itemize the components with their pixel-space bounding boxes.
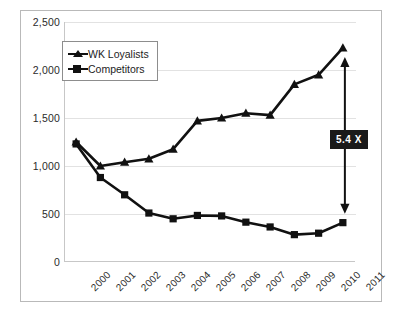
- data-point-marker: [194, 212, 201, 219]
- data-point-marker: [291, 231, 298, 238]
- square-marker-icon: [68, 63, 88, 75]
- series-layer: [0, 0, 396, 315]
- series-competitors: [73, 140, 347, 238]
- chart-legend: WK Loyalists Competitors: [62, 41, 158, 81]
- data-point-marker: [97, 174, 104, 181]
- data-point-marker: [267, 223, 274, 230]
- legend-label: WK Loyalists: [88, 48, 149, 60]
- data-point-marker: [339, 219, 346, 226]
- triangle-marker-icon: [68, 48, 88, 60]
- data-point-marker: [121, 191, 128, 198]
- data-point-marker: [145, 209, 152, 216]
- chart-container: 2,500 2,000 1,500 1,000 500 0 2000 2001 …: [0, 0, 396, 315]
- legend-label: Competitors: [88, 63, 145, 75]
- data-point-marker: [218, 212, 225, 219]
- data-point-marker: [170, 215, 177, 222]
- data-point-marker: [315, 230, 322, 237]
- legend-item-wk-loyalists: WK Loyalists: [68, 46, 149, 61]
- data-point-marker: [242, 219, 249, 226]
- legend-item-competitors: Competitors: [68, 61, 149, 76]
- ratio-callout-badge: 5.4 X: [330, 130, 368, 149]
- data-point-marker: [338, 43, 347, 51]
